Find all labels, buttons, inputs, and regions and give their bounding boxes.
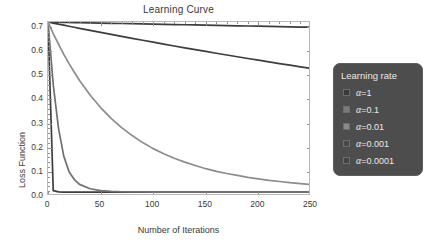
- x-minor-tick: [174, 194, 175, 195]
- legend-entry[interactable]: α=0.01: [343, 118, 422, 135]
- x-minor-tick: [90, 194, 91, 195]
- x-tick-label: 250: [290, 199, 330, 209]
- y-minor-tick-right: [309, 66, 310, 67]
- x-minor-tick: [69, 194, 70, 195]
- plot-frame: [47, 21, 310, 195]
- legend-swatch-icon: [343, 89, 350, 96]
- legend-entry[interactable]: α=0.1: [343, 101, 422, 118]
- x-minor-tick: [143, 194, 144, 195]
- plot-curves: [48, 22, 310, 195]
- y-minor-tick-right: [309, 56, 310, 57]
- y-tick-label: 0.5: [3, 69, 43, 79]
- y-minor-tick-right: [309, 104, 310, 105]
- x-minor-tick: [269, 194, 270, 195]
- legend-label: α=0.1: [356, 104, 379, 115]
- y-minor-tick-right: [309, 90, 310, 91]
- x-minor-tick: [237, 194, 238, 195]
- y-minor-tick-right: [309, 143, 310, 144]
- y-minor-tick-right: [309, 85, 310, 86]
- x-minor-tick: [279, 194, 280, 195]
- y-minor-tick-right: [309, 128, 310, 129]
- y-minor-tick-right: [309, 70, 310, 71]
- curve-α=0.001: [48, 22, 310, 68]
- y-tick-label: 0.1: [3, 166, 43, 176]
- y-minor-tick-right: [309, 22, 310, 23]
- x-tick-label: 0: [27, 199, 67, 209]
- legend-title: Learning rate: [341, 70, 422, 81]
- legend-label: α=0.01: [356, 121, 384, 132]
- y-minor-tick-right: [309, 61, 310, 62]
- y-minor-tick-right: [309, 80, 310, 81]
- y-tick-label: 0.7: [3, 21, 43, 31]
- y-minor-tick-right: [309, 37, 310, 38]
- y-minor-tick-right: [309, 46, 310, 47]
- y-tick-label: 0.3: [3, 118, 43, 128]
- y-tick-label: 0.2: [3, 142, 43, 152]
- x-minor-tick: [290, 194, 291, 195]
- y-minor-tick-right: [309, 177, 310, 178]
- x-minor-tick: [80, 194, 81, 195]
- y-minor-tick-right: [309, 153, 310, 154]
- y-minor-tick-right: [309, 191, 310, 192]
- y-tick-label: 0.6: [3, 45, 43, 55]
- y-minor-tick-right: [309, 157, 310, 158]
- x-minor-tick: [300, 194, 301, 195]
- x-minor-tick: [122, 194, 123, 195]
- legend-swatch-icon: [343, 140, 350, 147]
- y-minor-tick-right: [309, 109, 310, 110]
- chart-title: Learning Curve: [47, 4, 310, 15]
- y-minor-tick-right: [309, 95, 310, 96]
- legend-swatch-icon: [343, 106, 350, 113]
- y-minor-tick-right: [309, 114, 310, 115]
- x-minor-tick: [164, 194, 165, 195]
- legend-panel: Learning rate α=1α=0.1α=0.01α=0.001α=0.0…: [333, 63, 423, 176]
- legend-label: α=1: [356, 87, 372, 98]
- legend-label: α=0.001: [356, 138, 389, 149]
- x-minor-tick: [216, 194, 217, 195]
- legend-entries: α=1α=0.1α=0.01α=0.001α=0.0001: [334, 84, 422, 169]
- y-minor-tick-right: [309, 167, 310, 168]
- x-minor-tick: [248, 194, 249, 195]
- legend-swatch-icon: [343, 123, 350, 130]
- y-minor-tick-right: [309, 32, 310, 33]
- y-minor-tick-right: [309, 162, 310, 163]
- x-minor-tick: [185, 194, 186, 195]
- y-tick-label: 0.4: [3, 93, 43, 103]
- x-minor-tick: [111, 194, 112, 195]
- x-minor-tick: [59, 194, 60, 195]
- x-tick-label: 50: [80, 199, 120, 209]
- x-minor-tick: [227, 194, 228, 195]
- x-tick-label: 150: [185, 199, 225, 209]
- x-minor-tick: [195, 194, 196, 195]
- chart-root: Learning Curve Loss Function 0.00.10.20.…: [0, 0, 432, 244]
- legend-entry[interactable]: α=0.001: [343, 135, 422, 152]
- y-minor-tick-right: [309, 186, 310, 187]
- x-axis-title: Number of Iterations: [47, 225, 310, 235]
- legend-swatch-icon: [343, 157, 350, 164]
- y-minor-tick-right: [309, 182, 310, 183]
- x-minor-tick: [132, 194, 133, 195]
- legend-entry[interactable]: α=1: [343, 84, 422, 101]
- learning-curve-figure: Learning Curve Loss Function 0.00.10.20.…: [0, 0, 330, 244]
- y-minor-tick-right: [309, 119, 310, 120]
- legend-entry[interactable]: α=0.0001: [343, 152, 422, 169]
- y-minor-tick-right: [309, 41, 310, 42]
- legend-label: α=0.0001: [356, 155, 394, 166]
- curve-α=0.0001: [48, 22, 310, 27]
- x-tick-label: 200: [237, 199, 277, 209]
- y-minor-tick-right: [309, 133, 310, 134]
- x-tick-label: 100: [132, 199, 172, 209]
- y-minor-tick-right: [309, 138, 310, 139]
